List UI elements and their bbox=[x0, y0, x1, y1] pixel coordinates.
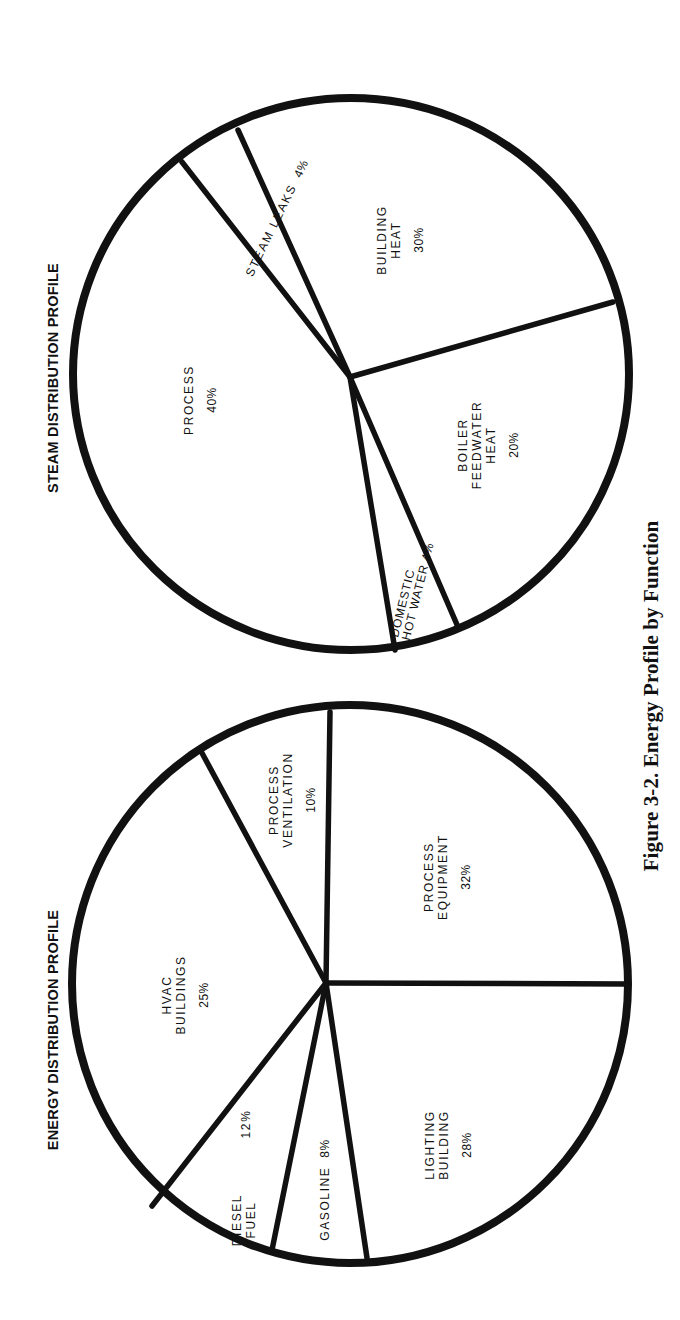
slice-label-line: FUEL bbox=[244, 1194, 258, 1246]
steam-slice-label-boiler-feedwater-heat: BOILER FEEDWATER HEAT 20% bbox=[456, 401, 521, 489]
slice-label-line: EQUIPMENT bbox=[436, 834, 450, 920]
energy-slice-label-lighting-building: LIGHTING BUILDING 28% bbox=[423, 1110, 474, 1179]
energy-spoke-lighting-gasoline bbox=[326, 983, 367, 1258]
steam-spoke-building-boiler bbox=[350, 302, 613, 377]
slice-percentage: 8% bbox=[318, 1139, 332, 1157]
slice-percentage: 10% bbox=[304, 752, 318, 847]
figure-page: STEAM DISTRIBUTION PROFILE ENERGY DISTRI… bbox=[0, 0, 680, 1320]
energy-pie bbox=[72, 705, 628, 1263]
energy-slice-percentage-diesel-fuel: 12% bbox=[239, 1110, 253, 1139]
slice-percentage: 40% bbox=[205, 365, 219, 435]
slice-percentage: 32% bbox=[459, 834, 473, 920]
slice-label-line: HVAC bbox=[160, 955, 174, 1034]
steam-spoke-domestic-process bbox=[350, 377, 395, 650]
energy-slice-label-diesel-fuel: DIESEL FUEL bbox=[230, 1194, 258, 1246]
slice-label-line: PROCESS bbox=[267, 752, 281, 847]
energy-slice-label-process-ventilation: PROCESS VENTILATION 10% bbox=[267, 752, 318, 847]
energy-spoke-equipment-lighting bbox=[326, 983, 627, 984]
steam-slice-label-process: PROCESS 40% bbox=[182, 365, 219, 435]
slice-label-line: HEAT bbox=[389, 205, 403, 274]
slice-label-line: PROCESS bbox=[422, 834, 436, 920]
slice-percentage: 25% bbox=[197, 955, 211, 1034]
pie-charts-graphic bbox=[0, 0, 680, 1320]
slice-label-line: VENTILATION bbox=[281, 752, 295, 847]
slice-label-line: BUILDING bbox=[437, 1110, 451, 1179]
slice-label-line: BOILER bbox=[456, 401, 470, 489]
slice-label-line: GASOLINE bbox=[318, 1167, 332, 1241]
slice-label-line: FEEDWATER bbox=[470, 401, 484, 489]
slice-label-line: DIESEL bbox=[230, 1194, 244, 1246]
slice-percentage: 20% bbox=[507, 401, 521, 489]
slice-label-line: LIGHTING bbox=[423, 1110, 437, 1179]
steam-slice-label-building-heat: BUILDING HEAT 30% bbox=[375, 205, 426, 274]
slice-label-line: BUILDING bbox=[375, 205, 389, 274]
slice-percentage: 30% bbox=[412, 205, 426, 274]
slice-percentage: 28% bbox=[460, 1110, 474, 1179]
slice-label-line: PROCESS bbox=[182, 365, 196, 435]
steam-chart-title: STEAM DISTRIBUTION PROFILE bbox=[45, 263, 61, 493]
slice-label-line: HEAT bbox=[484, 401, 498, 489]
slice-label-line: BUILDINGS bbox=[174, 955, 188, 1034]
energy-spoke-ventilation-equipment bbox=[326, 712, 330, 983]
steam-pie bbox=[73, 98, 629, 650]
energy-chart-title: ENERGY DISTRIBUTION PROFILE bbox=[45, 910, 61, 1150]
energy-slice-label-process-equipment: PROCESS EQUIPMENT 32% bbox=[422, 834, 473, 920]
energy-slice-label-gasoline: GASOLINE 8% bbox=[318, 1139, 332, 1240]
figure-caption: Figure 3-2. Energy Profile by Function bbox=[639, 521, 664, 872]
energy-slice-label-hvac-buildings: HVAC BUILDINGS 25% bbox=[160, 955, 211, 1034]
